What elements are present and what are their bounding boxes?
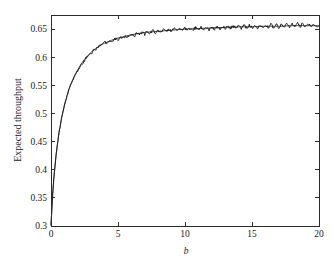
figure-canvas: 0.30.350.40.450.50.550.60.65 05101520 b … bbox=[0, 0, 334, 268]
x-axis-title: b bbox=[184, 246, 189, 256]
y-tick-label: 0.55 bbox=[30, 81, 47, 91]
y-tick-label: 0.65 bbox=[30, 24, 47, 34]
x-tick-label: 10 bbox=[180, 229, 190, 239]
x-tick-label: 0 bbox=[49, 229, 54, 239]
y-axis-title: Expected throughput bbox=[12, 78, 23, 162]
y-tick-label: 0.4 bbox=[35, 165, 47, 175]
y-axis-tick-labels: 0.30.350.40.450.50.550.60.65 bbox=[30, 24, 47, 231]
x-tick-label: 15 bbox=[247, 229, 257, 239]
x-tick-label: 20 bbox=[314, 229, 324, 239]
x-tick-label: 5 bbox=[116, 229, 121, 239]
y-tick-label: 0.35 bbox=[30, 193, 47, 203]
y-tick-label: 0.6 bbox=[35, 53, 47, 63]
x-axis-tick-labels: 05101520 bbox=[49, 229, 324, 239]
plot-area-background bbox=[51, 15, 319, 226]
throughput-line-chart: 0.30.350.40.450.50.550.60.65 05101520 b … bbox=[0, 0, 334, 268]
y-tick-label: 0.3 bbox=[35, 221, 47, 231]
y-tick-label: 0.5 bbox=[35, 109, 47, 119]
y-tick-label: 0.45 bbox=[30, 137, 47, 147]
